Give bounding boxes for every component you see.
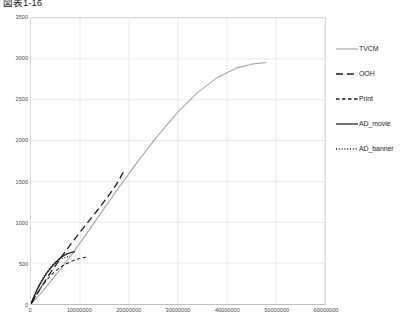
chart-container: 図表1-16 0500100015002000250030003500 0100… — [0, 0, 414, 321]
x-tick-label: 20000000 — [116, 307, 141, 314]
x-tick-label: 0 — [28, 307, 31, 314]
y-tick-label: 3000 — [0, 55, 28, 61]
x-tick-label: 40000000 — [215, 307, 240, 314]
legend-swatch-tvcm-icon — [336, 44, 358, 54]
y-tick-label: 1500 — [0, 179, 28, 185]
legend-label: TVCM — [358, 44, 378, 53]
legend-label: OOH — [358, 69, 375, 78]
legend-label: Print — [358, 94, 373, 103]
legend-item-tvcm[interactable]: TVCM — [336, 36, 412, 61]
y-tick-label: 1000 — [0, 220, 28, 226]
plot-area — [30, 17, 326, 305]
legend-item-print[interactable]: Print — [336, 86, 412, 111]
legend-swatch-ad_movie-icon — [336, 119, 358, 129]
y-tick-label: 500 — [0, 261, 28, 267]
x-tick-label: 30000000 — [166, 307, 191, 314]
y-tick-label: 2000 — [0, 137, 28, 143]
y-tick-label: 2500 — [0, 96, 28, 102]
x-tick-label: 10000000 — [67, 307, 92, 314]
chart-legend: TVCMOOHPrintAD_movieAD_banner — [336, 36, 412, 161]
y-tick-label: 0 — [0, 302, 28, 308]
x-tick-label: 50000000 — [264, 307, 289, 314]
series-line-tvcm — [31, 63, 266, 304]
legend-swatch-ooh-icon — [336, 69, 358, 79]
legend-swatch-ad_banner-icon — [336, 144, 358, 154]
legend-swatch-print-icon — [336, 94, 358, 104]
legend-item-ad_banner[interactable]: AD_banner — [336, 136, 412, 161]
y-axis-labels: 0500100015002000250030003500 — [0, 17, 28, 305]
legend-label: AD_movie — [358, 119, 391, 128]
y-tick-label: 3500 — [0, 14, 28, 20]
legend-item-ad_movie[interactable]: AD_movie — [336, 111, 412, 136]
chart-title: 図表1-16 — [3, 0, 42, 8]
x-axis-labels: 0100000002000000030000000400000005000000… — [30, 307, 326, 317]
series-line-ooh — [31, 171, 124, 304]
series-lines — [31, 18, 325, 304]
legend-item-ooh[interactable]: OOH — [336, 61, 412, 86]
legend-label: AD_banner — [358, 144, 394, 153]
series-line-print — [31, 257, 86, 304]
x-tick-label: 60000000 — [314, 307, 339, 314]
